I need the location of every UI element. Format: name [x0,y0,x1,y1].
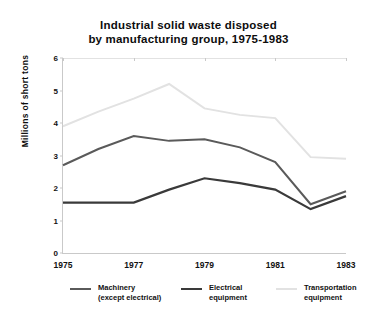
x-tick-label: 1979 [195,260,214,270]
y-tick-label: 2 [54,184,58,193]
legend-swatch [70,288,91,290]
series-line [63,84,346,159]
legend-item[interactable]: Electricalequipment [181,283,247,302]
chart-title-line-2: by manufacturing group, 1975-1983 [0,32,377,46]
x-tick-mark [346,58,347,61]
legend-label: Machinery(except electrical) [98,283,161,302]
y-tick-label: 6 [54,54,58,63]
x-tick-label: 1983 [337,260,356,270]
legend-swatch [181,288,202,290]
y-tick-label: 3 [54,151,58,160]
chart-legend: Machinery(except electrical)Electricaleq… [62,283,377,313]
legend-label-line-1: Machinery [98,283,161,293]
y-tick-label: 0 [54,249,58,258]
plot-area: 0123456 19751977197919811983 [62,58,346,254]
legend-label-line-1: Transportation [304,283,357,293]
y-tick-label: 1 [54,216,58,225]
y-tick-label: 4 [54,119,58,128]
legend-swatch [276,288,297,290]
legend-label-line-1: Electrical [209,283,247,293]
series-line [63,136,346,204]
y-axis-label: Millions of short tons [20,36,30,166]
legend-label: Electricalequipment [209,283,247,302]
series-line [63,178,346,209]
x-tick-label: 1977 [124,260,143,270]
chart-title: Industrial solid waste disposed by manuf… [0,18,377,46]
legend-label: Transportationequipment [304,283,357,302]
legend-label-line-2: equipment [304,293,357,303]
x-tick-label: 1981 [266,260,285,270]
legend-label-line-2: (except electrical) [98,293,161,303]
chart-title-line-1: Industrial solid waste disposed [0,18,377,32]
chart-container: Industrial solid waste disposed by manuf… [0,0,377,315]
y-tick-label: 5 [54,86,58,95]
legend-item[interactable]: Machinery(except electrical) [70,283,161,302]
legend-label-line-2: equipment [209,293,247,303]
series-lines [63,58,346,253]
legend-item[interactable]: Transportationequipment [276,283,357,302]
x-tick-label: 1975 [54,260,73,270]
